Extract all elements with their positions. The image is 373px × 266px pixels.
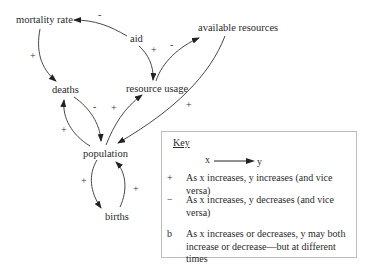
edge-population-to-births [91,160,101,208]
sign-population-usage: + [111,103,117,113]
key-symbol-minus: − [167,194,177,207]
node-aid: aid [130,34,143,45]
node-deaths: deaths [52,85,79,96]
sign-aid-usage: + [151,45,157,55]
key-y-label: y [257,156,262,167]
edge-deaths-to-population [74,97,101,141]
sign-available-population: + [186,100,192,110]
key-text-negative: As x increases, y decreases (and vice ve… [186,194,336,219]
sign-usage-available: - [170,40,173,50]
sign-deaths-population: - [93,102,96,112]
node-mortality-rate: mortality rate [16,15,73,26]
sign-aid-mortality: - [98,10,101,20]
key-text-both: As x increases or decreases, y may both … [186,228,356,266]
edge-resource-usage-to-available-resources [156,38,199,81]
node-resource-usage: resource usage [126,84,188,95]
key-legend: Key x y + As x increases, y increases (a… [161,131,357,258]
edge-mortality-rate-to-deaths [39,29,56,81]
edge-aid-to-mortality-rate [74,20,127,36]
node-available-resources: available resources [198,23,278,34]
key-x-label: x [205,154,210,165]
edge-births-to-population [116,162,125,207]
sign-births-population: + [133,184,139,194]
node-population: population [83,149,128,160]
sign-mortality-deaths: + [30,51,36,61]
key-symbol-plus: + [167,172,177,185]
sign-population-deaths: + [61,125,67,135]
sign-population-births: + [81,176,87,186]
key-arrow-icon [214,157,256,165]
key-symbol-b: b [167,228,177,241]
key-title: Key [173,137,190,148]
node-births: births [105,212,129,223]
